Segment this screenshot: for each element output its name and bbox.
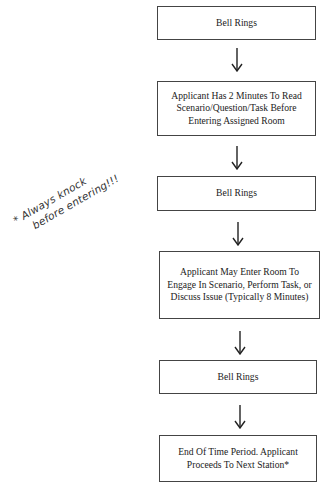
note-line-1: * Always knock: [10, 145, 138, 227]
step-3-label: Bell Rings: [216, 187, 257, 200]
down-arrow-icon: [234, 405, 246, 429]
step-4-box: Applicant May Enter Room To Engage In Sc…: [159, 251, 320, 319]
step-6-box: End Of Time Period. Applicant Proceeds T…: [159, 435, 317, 482]
down-arrow-icon: [231, 146, 243, 170]
step-2-label: Applicant Has 2 Minutes To Read Scenario…: [164, 90, 309, 128]
step-5-box: Bell Rings: [159, 360, 317, 394]
step-3-box: Bell Rings: [157, 176, 316, 211]
step-5-label: Bell Rings: [218, 371, 259, 384]
step-1-box: Bell Rings: [157, 6, 316, 40]
step-2-box: Applicant Has 2 Minutes To Read Scenario…: [157, 81, 316, 136]
step-1-label: Bell Rings: [216, 17, 257, 30]
handwritten-note: * Always knock before entering!!!: [10, 145, 145, 239]
down-arrow-icon: [231, 48, 243, 72]
down-arrow-icon: [234, 331, 246, 355]
down-arrow-icon: [232, 222, 244, 246]
step-6-label: End Of Time Period. Applicant Proceeds T…: [166, 446, 310, 471]
step-4-label: Applicant May Enter Room To Engage In Sc…: [166, 266, 313, 304]
